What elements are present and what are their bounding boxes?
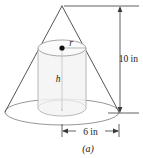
cylinder-top-center-dot — [59, 45, 64, 50]
geometry-figure: r h 10 in 6 in (a) — [0, 0, 143, 158]
cylinder-base-center-dot — [61, 109, 63, 111]
height-variable-label: h — [56, 74, 61, 84]
diameter-arrow-left — [62, 129, 68, 134]
cone-cylinder-diagram: r h 10 in 6 in (a) — [0, 0, 143, 158]
diameter-dimension-label: 6 in — [83, 127, 98, 137]
figure-caption: (a) — [82, 143, 94, 155]
dimension-arrow-up — [118, 6, 123, 12]
height-dimension-label: 10 in — [119, 54, 139, 64]
diameter-arrow-right — [113, 129, 119, 134]
radius-label: r — [69, 38, 73, 48]
